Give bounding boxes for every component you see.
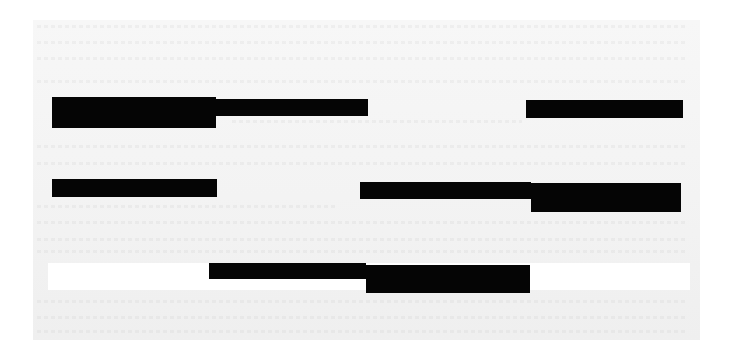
faint-text-line (37, 25, 687, 28)
faint-text-line (37, 162, 687, 165)
faint-text-line (37, 145, 687, 148)
redaction-bar (366, 265, 530, 293)
faint-text-line (37, 316, 687, 319)
redaction-bar (526, 100, 683, 118)
faint-text-line (37, 41, 687, 44)
faint-text-line (37, 221, 687, 224)
redaction-bar (52, 97, 216, 128)
faint-text-line (37, 330, 687, 333)
faint-text-line (37, 205, 337, 208)
redaction-bar (216, 99, 368, 116)
faint-text-line (37, 250, 687, 253)
redaction-bar (360, 182, 531, 199)
faint-text-line (37, 300, 687, 303)
faint-text-line (232, 120, 522, 123)
redaction-bar (209, 263, 366, 279)
redaction-bar (531, 183, 681, 212)
faint-text-line (37, 80, 687, 83)
faint-text-line (37, 238, 687, 241)
faint-text-line (37, 57, 687, 60)
redaction-bar (52, 179, 217, 197)
